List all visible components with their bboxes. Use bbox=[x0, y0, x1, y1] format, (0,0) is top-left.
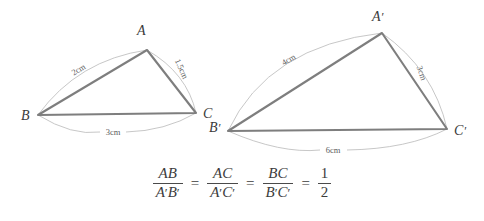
side-label-a-prime-b-prime: 4cm bbox=[280, 51, 298, 67]
fraction-denominator: A′B′ bbox=[153, 183, 183, 201]
fraction-ac-over-a-prime-c-prime: AC A′C′ bbox=[207, 166, 238, 200]
vertex-label-a: A bbox=[136, 23, 146, 38]
side-label-ab: 2cm bbox=[70, 61, 88, 77]
vertex-label-c: C bbox=[203, 106, 213, 121]
vertex-label-b: B bbox=[21, 108, 30, 123]
vertex-label-a-prime: A′ bbox=[371, 9, 385, 24]
vertex-label-b-prime: B′ bbox=[209, 120, 222, 135]
proportion-equation: AB A′B′ = AC A′C′ = BC B′C′ = 1 2 bbox=[0, 166, 484, 200]
fraction-bc-over-b-prime-c-prime: BC B′C′ bbox=[263, 166, 294, 200]
fraction-numerator: 1 bbox=[318, 166, 332, 183]
arc-b-prime-c-prime-right bbox=[347, 129, 447, 150]
arc-bc-left bbox=[38, 115, 100, 133]
side-label-ac: 1.5cm bbox=[173, 57, 191, 81]
equals-sign-2: = bbox=[245, 175, 255, 192]
fraction-numerator: BC bbox=[265, 166, 290, 183]
triangle-a-prime-b-prime-c-prime-group: A′ B′ C′ 4cm 3cm 6cm bbox=[209, 9, 467, 155]
side-label-bc: 3cm bbox=[106, 127, 121, 137]
fraction-ab-over-a-prime-b-prime: AB A′B′ bbox=[153, 166, 183, 200]
fraction-denominator: B′C′ bbox=[263, 183, 294, 201]
similar-triangles-figure: A B C 2cm 1.5cm 3cm A′ B′ C′ bbox=[0, 0, 484, 221]
side-label-b-prime-c-prime: 6cm bbox=[326, 145, 341, 155]
triangle-abc-outline bbox=[38, 50, 196, 115]
equals-sign-1: = bbox=[190, 175, 200, 192]
fraction-denominator: A′C′ bbox=[207, 183, 238, 201]
fraction-denominator: 2 bbox=[318, 183, 332, 201]
arc-b-prime-c-prime-left bbox=[228, 131, 320, 151]
equals-sign-3: = bbox=[300, 175, 310, 192]
vertex-label-c-prime: C′ bbox=[454, 123, 467, 138]
triangle-a-prime-b-prime-c-prime-outline bbox=[228, 33, 447, 131]
triangle-abc-group: A B C 2cm 1.5cm 3cm bbox=[21, 23, 213, 137]
fraction-numerator: AC bbox=[210, 166, 235, 183]
fraction-one-half: 1 2 bbox=[318, 166, 332, 200]
fraction-numerator: AB bbox=[156, 166, 180, 183]
arc-bc-right bbox=[126, 113, 196, 132]
